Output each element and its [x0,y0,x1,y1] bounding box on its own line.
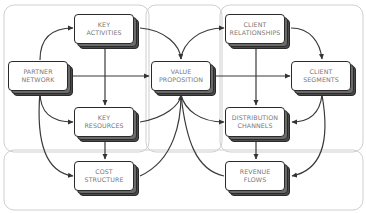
node-client-segments: CLIENT SEGMENTS [291,61,351,91]
node-revenue-flows: REVENUE FLOWS [225,161,285,191]
node-label: NETWORK [22,76,55,84]
node-label: RESOURCES [84,122,123,130]
node-label: STRUCTURE [85,176,124,184]
node-cost-structure: COST STRUCTURE [74,161,134,191]
node-label: CHANNELS [237,122,272,130]
business-model-diagram: KEY ACTIVITIES PARTNER NETWORK VALUE PRO… [0,0,366,213]
node-label: FLOWS [244,176,267,184]
node-label: CLIENT [310,68,333,76]
node-label: PARTNER [23,68,52,76]
node-label: KEY [98,114,110,122]
node-label: PROPOSITION [159,76,203,84]
node-label: RELATIONSHIPS [230,29,281,37]
node-key-activities: KEY ACTIVITIES [74,14,134,44]
diagram-connectors [0,0,366,213]
node-partner-network: PARTNER NETWORK [8,61,68,91]
region-bottom [4,150,363,210]
node-key-resources: KEY RESOURCES [74,107,134,137]
node-label: CLIENT [244,21,267,29]
node-label: REVENUE [240,168,271,176]
node-client-relationships: CLIENT RELATIONSHIPS [225,14,285,44]
node-label: ACTIVITIES [86,29,121,37]
node-label: COST [95,168,113,176]
node-label: KEY [98,21,110,29]
node-value-proposition: VALUE PROPOSITION [151,61,211,91]
region-panels [4,5,363,210]
node-label: SEGMENTS [303,76,339,84]
node-distribution-channels: DISTRIBUTION CHANNELS [225,107,285,137]
node-label: DISTRIBUTION [232,114,278,122]
node-label: VALUE [171,68,192,76]
